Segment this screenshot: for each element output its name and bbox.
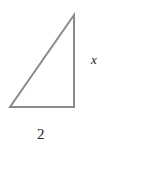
base-label: 2 xyxy=(37,126,45,142)
vertical-side-label: x xyxy=(90,52,97,67)
right-triangle xyxy=(10,15,74,107)
triangle-diagram: x 2 xyxy=(0,0,151,170)
